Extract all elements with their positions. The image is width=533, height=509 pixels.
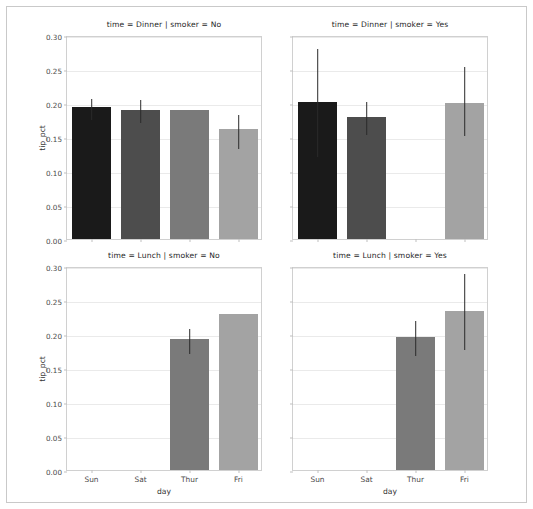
y-tick-mark <box>290 404 293 405</box>
y-tick-label: 0.00 <box>46 468 62 477</box>
y-tick-mark <box>64 139 67 140</box>
y-tick-mark <box>64 302 67 303</box>
y-tick-mark <box>290 241 293 242</box>
panel-dinner-no: time = Dinner | smoker = No tip_pct 0.00… <box>66 36 262 240</box>
y-tick-label: 0.15 <box>46 366 62 375</box>
y-tick-label: 0.25 <box>46 67 62 76</box>
x-tick-mark <box>189 239 190 242</box>
gridline <box>67 37 261 38</box>
x-tick-label-fri: Fri <box>234 475 243 484</box>
x-tick-mark <box>366 239 367 242</box>
panel-title: time = Lunch | smoker = Yes <box>292 251 488 260</box>
plot-area: SunSatThurFri <box>292 267 488 471</box>
plot-area: 0.000.050.100.150.200.250.30 <box>66 36 262 240</box>
x-tick-mark <box>189 470 190 473</box>
x-tick-label-sat: Sat <box>134 475 146 484</box>
figure-canvas: time = Dinner | smoker = No tip_pct 0.00… <box>0 0 533 509</box>
error-bar-sat <box>140 100 142 122</box>
gridline <box>67 302 261 303</box>
y-tick-label: 0.00 <box>46 237 62 246</box>
bar-fri <box>219 314 258 470</box>
x-axis-label: day <box>292 487 488 496</box>
gridline <box>67 71 261 72</box>
y-tick-mark <box>64 404 67 405</box>
y-tick-mark <box>290 139 293 140</box>
x-tick-label-sun: Sun <box>84 475 98 484</box>
x-tick-mark <box>415 470 416 473</box>
y-tick-mark <box>290 71 293 72</box>
y-tick-label: 0.15 <box>46 135 62 144</box>
x-tick-mark <box>140 239 141 242</box>
x-tick-mark <box>317 470 318 473</box>
y-tick-label: 0.10 <box>46 400 62 409</box>
y-tick-mark <box>290 268 293 269</box>
y-tick-label: 0.05 <box>46 203 62 212</box>
y-tick-mark <box>290 370 293 371</box>
y-tick-mark <box>64 472 67 473</box>
gridline <box>293 268 487 269</box>
y-tick-label: 0.10 <box>46 169 62 178</box>
panel-dinner-yes: time = Dinner | smoker = Yes <box>292 36 488 240</box>
error-bar-thur <box>415 321 417 356</box>
y-tick-mark <box>64 37 67 38</box>
y-tick-mark <box>290 173 293 174</box>
panel-lunch-yes: time = Lunch | smoker = Yes SunSatThurFr… <box>292 267 488 471</box>
x-tick-label-sat: Sat <box>360 475 372 484</box>
x-tick-mark <box>238 470 239 473</box>
panel-title: time = Dinner | smoker = Yes <box>292 20 488 29</box>
x-tick-mark <box>91 470 92 473</box>
x-tick-mark <box>415 239 416 242</box>
x-tick-mark <box>366 470 367 473</box>
y-tick-mark <box>64 438 67 439</box>
error-bar-fri <box>464 67 466 136</box>
y-tick-label: 0.25 <box>46 298 62 307</box>
x-axis-label: day <box>66 487 262 496</box>
bar-sat <box>121 110 160 239</box>
x-tick-mark <box>238 239 239 242</box>
bar-thur <box>396 337 435 470</box>
y-tick-mark <box>290 336 293 337</box>
y-tick-mark <box>290 37 293 38</box>
y-tick-mark <box>290 105 293 106</box>
panel-lunch-no: time = Lunch | smoker = No tip_pct 0.000… <box>66 267 262 471</box>
y-tick-label: 0.20 <box>46 332 62 341</box>
x-tick-mark <box>464 470 465 473</box>
gridline <box>293 302 487 303</box>
plot-area <box>292 36 488 240</box>
y-tick-label: 0.30 <box>46 33 62 42</box>
gridline <box>293 37 487 38</box>
error-bar-thur <box>189 329 191 353</box>
y-tick-mark <box>64 105 67 106</box>
x-tick-mark <box>91 239 92 242</box>
x-tick-label-fri: Fri <box>460 475 469 484</box>
gridline <box>67 105 261 106</box>
y-tick-mark <box>290 207 293 208</box>
panel-title: time = Lunch | smoker = No <box>66 251 262 260</box>
y-tick-mark <box>290 302 293 303</box>
y-tick-mark <box>64 173 67 174</box>
y-tick-mark <box>64 71 67 72</box>
panel-title: time = Dinner | smoker = No <box>66 20 262 29</box>
bar-sun <box>72 107 111 239</box>
x-tick-mark <box>317 239 318 242</box>
error-bar-sun <box>91 99 93 120</box>
x-tick-label-thur: Thur <box>181 475 198 484</box>
x-tick-mark <box>140 470 141 473</box>
bar-thur <box>170 339 209 470</box>
y-tick-mark <box>64 370 67 371</box>
bar-thur <box>170 110 209 239</box>
y-tick-label: 0.05 <box>46 434 62 443</box>
x-tick-label-sun: Sun <box>310 475 324 484</box>
y-tick-mark <box>64 241 67 242</box>
y-tick-mark <box>290 472 293 473</box>
y-tick-mark <box>290 438 293 439</box>
error-bar-sun <box>317 49 319 157</box>
y-tick-mark <box>64 268 67 269</box>
error-bar-fri <box>464 274 466 350</box>
bar-sat <box>347 117 386 239</box>
gridline <box>67 268 261 269</box>
x-tick-label-thur: Thur <box>407 475 424 484</box>
y-tick-label: 0.30 <box>46 264 62 273</box>
y-tick-mark <box>64 336 67 337</box>
plot-area: 0.000.050.100.150.200.250.30SunSatThurFr… <box>66 267 262 471</box>
